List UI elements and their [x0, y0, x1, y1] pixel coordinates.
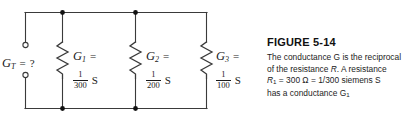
- label-total-conductance: GT = ?: [2, 54, 35, 71]
- g2-denominator: 200: [146, 81, 161, 90]
- caption-line-2: of the resistance R. A resistance: [267, 64, 403, 76]
- caption-line-3-rest: = 300 Ω = 1/300 siemens S: [277, 75, 381, 85]
- gt-value: ?: [30, 57, 35, 69]
- circuit-diagram: GT = ? G1 = 1 300 S G2 =: [0, 0, 258, 120]
- figure-caption-text: The conductance G is the reciprocal of t…: [267, 52, 403, 100]
- g3-numerator: 1: [216, 70, 231, 79]
- resistor-symbol-g1: [57, 42, 68, 78]
- caption-line-4-text: has a conductance G: [267, 88, 346, 98]
- g3-equals: =: [233, 50, 239, 62]
- g3-symbol: G: [216, 49, 225, 63]
- gt-subscript: T: [11, 62, 15, 71]
- terminal-top-open-circle: [23, 42, 28, 47]
- g2-symbol: G: [146, 49, 155, 63]
- resistor-symbol-g2: [130, 42, 141, 78]
- g1-denominator: 300: [73, 81, 88, 90]
- g2-fraction: 1 200: [146, 70, 161, 90]
- label-branch-2: G2 = 1 200 S: [146, 48, 171, 90]
- caption-line-4-subscript: 1: [346, 91, 349, 98]
- g1-equals: =: [90, 50, 96, 62]
- resistor-symbol-g3: [201, 42, 212, 78]
- label-branch-3: G3 = 1 100 S: [216, 48, 241, 90]
- gt-symbol: G: [2, 56, 11, 70]
- g1-subscript: 1: [82, 55, 86, 64]
- junction-dot-bottom-right: [133, 106, 138, 111]
- terminal-bottom-open-circle: [23, 72, 28, 77]
- g2-equals: =: [163, 50, 169, 62]
- g2-numerator: 1: [146, 70, 161, 79]
- g3-subscript: 3: [225, 55, 229, 64]
- g3-unit: S: [235, 75, 241, 86]
- g1-numerator: 1: [73, 70, 88, 79]
- g1-unit: S: [92, 75, 98, 86]
- figure-5-14-panel: GT = ? G1 = 1 300 S G2 =: [0, 0, 403, 120]
- g3-fraction: 1 100: [216, 70, 231, 90]
- junction-dot-top-right: [133, 10, 138, 15]
- g2-subscript: 2: [155, 55, 159, 64]
- figure-title: FIGURE 5-14: [267, 36, 403, 48]
- g1-symbol: G: [73, 49, 82, 63]
- g3-denominator: 100: [216, 81, 231, 90]
- gt-equals: =: [19, 57, 25, 69]
- caption-line-2-prefix: of the resistance: [267, 64, 331, 74]
- g2-unit: S: [165, 75, 171, 86]
- caption-line-1: The conductance G is the reciprocal: [267, 52, 403, 64]
- caption-line-4: has a conductance G1: [267, 88, 403, 101]
- junction-dot-bottom-left: [60, 106, 65, 111]
- caption-line-3: R1 = 300 Ω = 1/300 siemens S: [267, 75, 403, 88]
- g1-fraction: 1 300: [73, 70, 88, 90]
- figure-caption: FIGURE 5-14 The conductance G is the rec…: [267, 36, 403, 100]
- junction-dot-top-left: [60, 10, 65, 15]
- label-branch-1: G1 = 1 300 S: [73, 48, 98, 90]
- caption-line-2-suffix: . A resistance: [337, 64, 387, 74]
